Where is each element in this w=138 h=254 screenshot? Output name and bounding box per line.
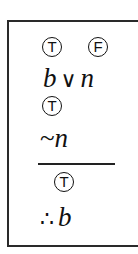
variable-b: b <box>43 63 57 93</box>
truth-value-t-circle-icon: T <box>54 172 74 192</box>
truth-value-f-circle-icon: F <box>88 37 108 57</box>
truth-value-t-circle-icon: T <box>42 37 62 57</box>
negation-symbol: ~ <box>40 123 55 153</box>
conclusion-statement: ∴b <box>40 203 72 233</box>
premise-disjunction: b∨n <box>43 64 94 94</box>
premise-negation: ~n <box>40 124 68 152</box>
argument-box <box>7 20 138 247</box>
therefore-symbol: ∴ <box>40 206 58 231</box>
conclusion-divider <box>38 163 115 165</box>
variable-n: n <box>81 63 95 93</box>
or-operator: ∨ <box>57 67 81 92</box>
variable-n: n <box>55 123 69 153</box>
truth-value-t-circle-icon: T <box>42 96 62 116</box>
variable-b: b <box>58 202 72 232</box>
